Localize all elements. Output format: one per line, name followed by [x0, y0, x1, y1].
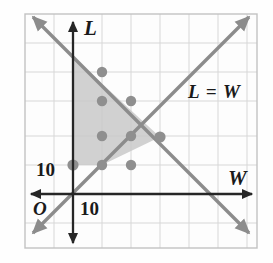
coordinate-plane-graph	[0, 0, 273, 263]
vertex-point-right	[154, 131, 165, 142]
origin-label: O	[33, 199, 47, 218]
x-axis-label: W	[228, 168, 247, 189]
x-axis-tick-label: 10	[80, 199, 99, 218]
data-point	[97, 67, 107, 77]
line-equation-label: L = W	[188, 82, 241, 101]
y-axis-label: L	[84, 18, 97, 39]
data-point	[126, 131, 136, 141]
data-point	[97, 131, 107, 141]
y-axis-tick-label: 10	[36, 160, 55, 179]
data-point	[126, 160, 136, 170]
data-point	[97, 160, 107, 170]
data-point	[126, 96, 136, 106]
data-point	[97, 96, 107, 106]
figure-container: L W L = W O 10 10	[0, 0, 273, 263]
